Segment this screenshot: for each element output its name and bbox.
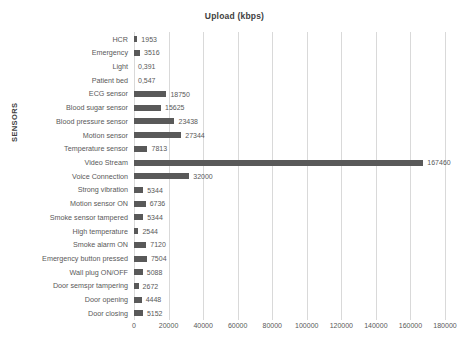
- category-label: Wall plug ON/OFF: [0, 265, 131, 279]
- bar-row[interactable]: 5088: [134, 265, 445, 279]
- category-label: Smoke alarm ON: [0, 238, 131, 252]
- bar-row[interactable]: 18750: [134, 87, 445, 101]
- x-tick-label: 160000: [399, 322, 422, 329]
- category-label: Motion sensor: [0, 128, 131, 142]
- x-tick-label: 20000: [159, 322, 178, 329]
- bar-value-label: 4448: [146, 296, 162, 303]
- bar[interactable]: [134, 160, 423, 166]
- category-axis-labels: HCREmergencyLightPatient bedECG sensorBl…: [0, 32, 131, 320]
- bar-value-label: 5344: [147, 214, 163, 221]
- bar-value-label: 5088: [147, 269, 163, 276]
- bar-row[interactable]: 3516: [134, 46, 445, 60]
- x-tick-label: 0: [132, 322, 136, 329]
- bar-row[interactable]: 27344: [134, 128, 445, 142]
- bar-value-label: 18750: [170, 91, 189, 98]
- bar[interactable]: [134, 297, 142, 303]
- category-label: High temperature: [0, 224, 131, 238]
- bar-value-label: 27344: [185, 132, 204, 139]
- upload-kbps-bar-chart: Upload (kbps) SENSORS HCREmergencyLightP…: [0, 0, 469, 349]
- bar[interactable]: [134, 256, 147, 262]
- bar-value-label: 2672: [143, 283, 159, 290]
- gridline-180000: [445, 32, 446, 320]
- bar-row[interactable]: 7120: [134, 238, 445, 252]
- category-label: Blood pressure sensor: [0, 114, 131, 128]
- category-label: ECG sensor: [0, 87, 131, 101]
- category-label: Voice Connection: [0, 169, 131, 183]
- bar-row[interactable]: 5344: [134, 183, 445, 197]
- bar-row[interactable]: 0,547: [134, 73, 445, 87]
- bar[interactable]: [134, 50, 140, 56]
- bar-row[interactable]: 7504: [134, 251, 445, 265]
- bar-value-label: 1953: [141, 36, 157, 43]
- bar[interactable]: [134, 105, 161, 111]
- bar-row[interactable]: 4448: [134, 293, 445, 307]
- bar[interactable]: [134, 173, 189, 179]
- bar-value-label: 32000: [193, 173, 212, 180]
- bar-row[interactable]: 2544: [134, 224, 445, 238]
- category-label: Door closing: [0, 306, 131, 320]
- category-label: Emergency button pressed: [0, 251, 131, 265]
- x-axis-tick-labels: 0200004000060000800001000001200001400001…: [134, 322, 445, 336]
- bar[interactable]: [134, 91, 166, 97]
- bar-value-label: 7120: [150, 241, 166, 248]
- bar-value-label: 5152: [147, 310, 163, 317]
- bar[interactable]: [134, 36, 137, 42]
- bar-value-label: 0,391: [138, 63, 156, 70]
- bar[interactable]: [134, 228, 138, 234]
- bar[interactable]: [134, 310, 143, 316]
- category-label: Light: [0, 59, 131, 73]
- bar[interactable]: [134, 118, 174, 124]
- category-label: Emergency: [0, 46, 131, 60]
- x-tick-label: 40000: [193, 322, 212, 329]
- category-label: Smoke sensor tampered: [0, 210, 131, 224]
- bar[interactable]: [134, 146, 147, 152]
- bar-value-label: 2544: [142, 228, 158, 235]
- bar-row[interactable]: 1953: [134, 32, 445, 46]
- bar[interactable]: [134, 201, 146, 207]
- bar[interactable]: [134, 132, 181, 138]
- bar-value-label: 7504: [151, 255, 167, 262]
- bar[interactable]: [134, 214, 143, 220]
- bar-value-label: 5344: [147, 187, 163, 194]
- bar-value-label: 167460: [427, 159, 450, 166]
- category-label: Motion sensor ON: [0, 197, 131, 211]
- bar-value-label: 23438: [178, 118, 197, 125]
- bar[interactable]: [134, 269, 143, 275]
- bar-row[interactable]: 5344: [134, 210, 445, 224]
- category-label: Temperature sensor: [0, 142, 131, 156]
- category-label: Strong vibration: [0, 183, 131, 197]
- bar-row[interactable]: 0,391: [134, 59, 445, 73]
- bar[interactable]: [134, 242, 146, 248]
- bar[interactable]: [134, 283, 139, 289]
- bar-row[interactable]: 15625: [134, 101, 445, 115]
- plot-area: 195335160,3910,5471875015625234382734478…: [134, 32, 445, 320]
- chart-title: Upload (kbps): [0, 11, 469, 21]
- bar-series: 195335160,3910,5471875015625234382734478…: [134, 32, 445, 320]
- x-tick-label: 80000: [262, 322, 281, 329]
- bar-row[interactable]: 32000: [134, 169, 445, 183]
- bar-row[interactable]: 2672: [134, 279, 445, 293]
- category-label: Patient bed: [0, 73, 131, 87]
- bar-value-label: 3516: [144, 49, 160, 56]
- bar-value-label: 7813: [151, 145, 167, 152]
- x-tick-label: 60000: [228, 322, 247, 329]
- bar[interactable]: [134, 187, 143, 193]
- category-label: Video Stream: [0, 155, 131, 169]
- bar-row[interactable]: 5152: [134, 306, 445, 320]
- x-tick-label: 120000: [330, 322, 353, 329]
- bar-value-label: 0,547: [138, 77, 156, 84]
- x-tick-label: 140000: [364, 322, 387, 329]
- bar-row[interactable]: 23438: [134, 114, 445, 128]
- bar-value-label: 6736: [150, 200, 166, 207]
- bar-row[interactable]: 6736: [134, 197, 445, 211]
- bar-value-label: 15625: [165, 104, 184, 111]
- category-label: Door semspr tampering: [0, 279, 131, 293]
- category-label: Door opening: [0, 293, 131, 307]
- category-label: Blood sugar sensor: [0, 101, 131, 115]
- bar-row[interactable]: 7813: [134, 142, 445, 156]
- x-tick-label: 180000: [433, 322, 456, 329]
- category-label: HCR: [0, 32, 131, 46]
- x-tick-label: 100000: [295, 322, 318, 329]
- bar-row[interactable]: 167460: [134, 155, 445, 169]
